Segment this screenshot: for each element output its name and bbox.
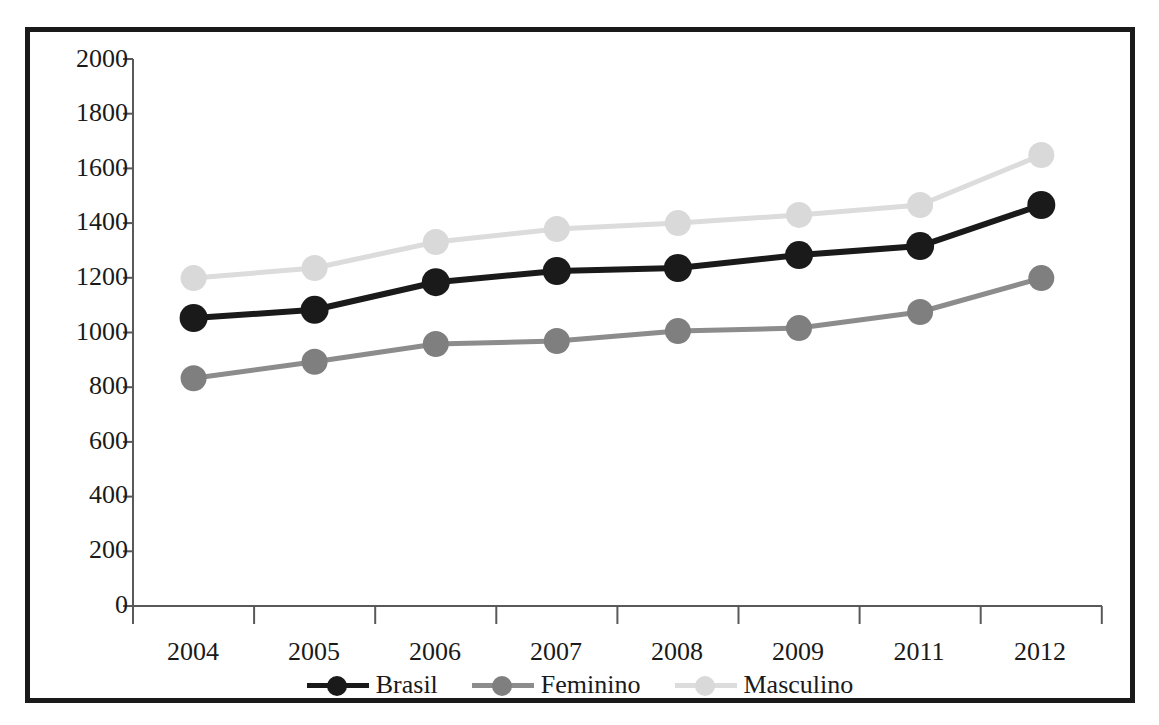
data-point-marker[interactable]: [906, 232, 934, 260]
y-tick-label: 1400: [40, 209, 128, 235]
figure-frame: 2000 1800 1600 1400 1200 1000 800 600 40…: [25, 27, 1135, 703]
data-point-marker[interactable]: [423, 331, 449, 357]
legend-label: Feminino: [541, 672, 641, 698]
legend-marker-icon: [675, 676, 737, 694]
x-axis-ticks: [133, 606, 1102, 624]
x-tick-label: 2012: [980, 639, 1100, 665]
x-tick-label: 2009: [738, 639, 858, 665]
y-tick-label: 1200: [40, 264, 128, 290]
legend-marker-icon: [307, 676, 369, 694]
x-tick-label: 2008: [617, 639, 737, 665]
y-tick-label: 400: [40, 482, 128, 508]
data-point-marker[interactable]: [544, 328, 570, 354]
y-tick-label: 1000: [40, 319, 128, 345]
x-tick-label: 2004: [133, 639, 253, 665]
data-point-marker[interactable]: [301, 296, 329, 324]
data-point-marker[interactable]: [665, 318, 691, 344]
data-point-marker[interactable]: [1028, 142, 1054, 168]
y-tick-label: 200: [40, 537, 128, 563]
y-tick-label: 800: [40, 373, 128, 399]
data-point-marker[interactable]: [1028, 265, 1054, 291]
data-point-marker[interactable]: [181, 365, 207, 391]
data-point-marker[interactable]: [180, 304, 208, 332]
clipped-caption-sliver: [0, 0, 1159, 12]
x-tick-label: 2005: [254, 639, 374, 665]
data-point-marker[interactable]: [665, 210, 691, 236]
data-point-marker[interactable]: [1027, 191, 1055, 219]
plot-area: [30, 32, 1130, 698]
legend-item-masculino[interactable]: Masculino: [675, 672, 854, 698]
y-tick-label: 2000: [40, 46, 128, 72]
data-point-marker[interactable]: [422, 268, 450, 296]
legend-marker-icon: [472, 676, 534, 694]
x-tick-label: 2006: [375, 639, 495, 665]
legend-label: Masculino: [744, 672, 854, 698]
data-point-marker[interactable]: [423, 229, 449, 255]
data-point-marker[interactable]: [907, 192, 933, 218]
data-point-marker[interactable]: [302, 255, 328, 281]
y-tick-label: 0: [40, 592, 128, 618]
data-point-marker[interactable]: [181, 265, 207, 291]
series-layer: [180, 142, 1056, 391]
data-point-marker[interactable]: [543, 257, 571, 285]
y-tick-label: 600: [40, 428, 128, 454]
data-point-marker[interactable]: [544, 216, 570, 242]
data-point-marker[interactable]: [786, 202, 812, 228]
data-point-marker[interactable]: [786, 315, 812, 341]
axis-lines: [133, 59, 1102, 606]
line-chart: 2000 1800 1600 1400 1200 1000 800 600 40…: [30, 32, 1130, 698]
chart-legend: Brasil Feminino Masculino: [30, 672, 1130, 698]
y-tick-label: 1800: [40, 100, 128, 126]
data-point-marker[interactable]: [664, 254, 692, 282]
y-tick-label: 1600: [40, 155, 128, 181]
x-tick-label: 2007: [496, 639, 616, 665]
legend-item-brasil[interactable]: Brasil: [307, 672, 438, 698]
data-point-marker[interactable]: [785, 241, 813, 269]
data-point-marker[interactable]: [907, 299, 933, 325]
legend-label: Brasil: [376, 672, 438, 698]
legend-item-feminino[interactable]: Feminino: [472, 672, 641, 698]
data-point-marker[interactable]: [302, 349, 328, 375]
x-tick-label: 2011: [859, 639, 979, 665]
series-feminino: [181, 265, 1055, 391]
